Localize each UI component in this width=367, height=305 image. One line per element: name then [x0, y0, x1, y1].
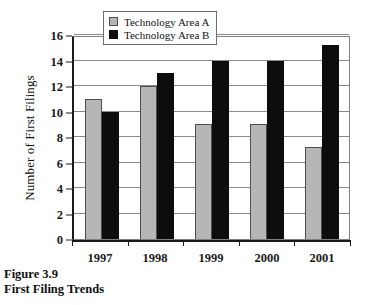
y-tick-label: 4 — [57, 182, 63, 197]
x-tick-label: 2000 — [255, 251, 280, 266]
y-tick-label: 8 — [57, 131, 63, 146]
bar-group — [305, 37, 339, 239]
bar — [267, 61, 284, 240]
legend-item: Technology Area A — [109, 15, 209, 28]
bar — [322, 45, 339, 239]
legend-item-label: Technology Area B — [124, 29, 209, 41]
x-tick-mark — [183, 240, 184, 246]
x-tick-mark — [128, 240, 129, 246]
bar — [157, 73, 174, 239]
x-tick-label: 1999 — [199, 251, 224, 266]
bar-group — [85, 37, 119, 239]
bar — [85, 99, 102, 239]
figure-container: Number of First Filings 0246810121416 19… — [0, 0, 367, 305]
legend-swatch-icon — [109, 17, 118, 26]
y-tick-label: 6 — [57, 156, 63, 171]
bar — [140, 86, 157, 239]
caption-figure-number: Figure 3.9 — [4, 267, 104, 282]
legend-item: Technology Area B — [109, 28, 209, 41]
x-tick-label: 1997 — [88, 251, 113, 266]
bar-group — [140, 37, 174, 239]
chart-legend: Technology Area ATechnology Area B — [103, 11, 217, 45]
y-tick-label: 0 — [57, 233, 63, 248]
y-tick-label: 14 — [51, 54, 64, 69]
x-tick-label: 2001 — [310, 251, 335, 266]
plot-area — [72, 36, 350, 240]
x-tick-mark — [239, 240, 240, 246]
bar — [305, 147, 322, 239]
y-axis-ticks: 0246810121416 — [40, 36, 72, 240]
y-tick-label: 16 — [51, 29, 64, 44]
x-tick-mark — [72, 240, 73, 246]
bar — [212, 61, 229, 240]
figure-caption: Figure 3.9 First Filing Trends — [4, 267, 104, 297]
x-axis-ticks: 19971998199920002001 — [72, 240, 350, 260]
y-tick-label: 10 — [51, 105, 64, 120]
bar — [250, 124, 267, 239]
bar — [102, 112, 119, 240]
bars-layer — [74, 37, 349, 239]
y-axis-title: Number of First Filings — [22, 48, 38, 228]
x-tick-mark — [350, 240, 351, 246]
x-tick-mark — [294, 240, 295, 246]
caption-figure-title: First Filing Trends — [4, 282, 104, 297]
legend-item-label: Technology Area A — [124, 16, 209, 28]
bar-group — [195, 37, 229, 239]
x-tick-label: 1998 — [143, 251, 168, 266]
y-tick-label: 2 — [57, 207, 63, 222]
bar-group — [250, 37, 284, 239]
bar — [195, 124, 212, 239]
legend-swatch-icon — [109, 30, 118, 39]
y-tick-label: 12 — [51, 80, 64, 95]
